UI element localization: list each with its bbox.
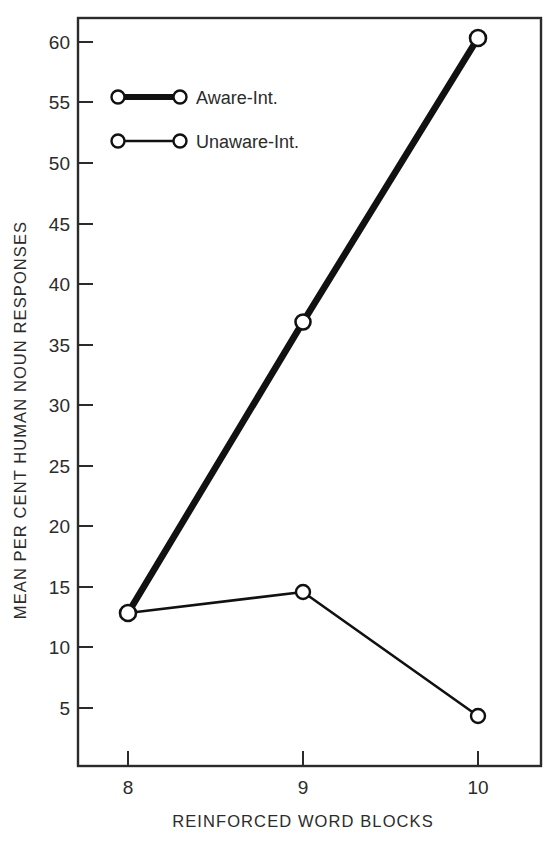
y-tick-label-50: 50 (49, 153, 70, 174)
y-tick-label-25: 25 (49, 456, 70, 477)
x-axis-tick-labels: 8 9 10 (123, 777, 489, 798)
y-tick-label-15: 15 (49, 577, 70, 598)
chart-legend: Aware-Int. Unaware-Int. (112, 88, 300, 152)
y-axis-ticks (78, 42, 93, 708)
aware-int-point-9 (296, 315, 311, 330)
x-tick-label-8: 8 (123, 777, 134, 798)
y-axis-title: MEAN PER CENT HUMAN NOUN RESPONSES (11, 221, 29, 619)
legend-marker-aware-int-left (112, 91, 125, 104)
y-tick-label-30: 30 (49, 395, 70, 416)
aware-int-point-10 (470, 30, 486, 46)
shared-point-8 (120, 605, 136, 621)
legend-entry-unaware-int: Unaware-Int. (112, 132, 300, 152)
series-aware-int (128, 30, 486, 613)
unaware-int-point-9 (296, 585, 310, 599)
x-tick-label-10: 10 (467, 777, 488, 798)
y-tick-label-55: 55 (49, 92, 70, 113)
legend-label-aware-int: Aware-Int. (196, 88, 278, 108)
plot-frame (78, 18, 541, 766)
unaware-int-point-10 (471, 709, 485, 723)
x-axis-title: REINFORCED WORD BLOCKS (172, 812, 434, 830)
y-axis-tick-labels: 60 55 50 45 40 35 30 25 20 15 10 5 (49, 32, 70, 719)
x-tick-label-9: 9 (298, 777, 309, 798)
series-unaware-int (128, 585, 485, 723)
y-tick-label-35: 35 (49, 335, 70, 356)
y-tick-label-5: 5 (59, 698, 70, 719)
legend-entry-aware-int: Aware-Int. (112, 88, 278, 108)
x-axis-ticks (128, 751, 478, 766)
y-tick-label-40: 40 (49, 274, 70, 295)
unaware-int-line (128, 592, 478, 716)
legend-marker-aware-int-right (174, 91, 187, 104)
legend-marker-unaware-int-right (174, 135, 187, 148)
legend-marker-unaware-int-left (112, 135, 125, 148)
y-tick-label-60: 60 (49, 32, 70, 53)
line-chart: 60 55 50 45 40 35 30 25 20 15 10 5 8 9 1… (0, 0, 555, 841)
y-tick-label-10: 10 (49, 637, 70, 658)
y-tick-label-45: 45 (49, 214, 70, 235)
y-tick-label-20: 20 (49, 516, 70, 537)
legend-label-unaware-int: Unaware-Int. (196, 132, 299, 152)
figure-container: 60 55 50 45 40 35 30 25 20 15 10 5 8 9 1… (0, 0, 555, 841)
frame-rect (78, 18, 541, 766)
